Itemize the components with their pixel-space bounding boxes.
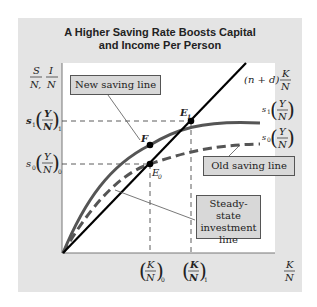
svg-text:(: ( [270,126,278,150]
svg-text:K: K [146,259,155,270]
y-tick-s1: s 1 ( Y N ) 1 [26,108,62,132]
svg-text:(: ( [35,151,43,175]
y-axis-label: S N, I N [29,65,58,90]
svg-text:Y: Y [279,98,287,109]
svg-text:): ) [287,98,295,122]
svg-text:Y: Y [44,108,52,119]
old-saving-label-box: Old saving line [203,156,295,176]
svg-text:K: K [285,259,294,270]
svg-text:): ) [287,126,295,150]
svg-text:1: 1 [187,113,191,120]
svg-text:(: ( [270,98,278,122]
svg-text:1: 1 [58,125,62,132]
new-saving-label-box: New saving line [70,75,161,95]
svg-text:N: N [284,272,295,283]
svg-text:s: s [262,133,266,142]
x-tick-k0: ( K N ) 0 [139,259,165,283]
svg-text:(n + d): (n + d) [244,74,279,85]
svg-text:N: N [280,81,291,92]
svg-text:N: N [188,272,199,283]
svg-text:I: I [48,65,54,76]
svg-text:1: 1 [204,276,208,283]
svg-text:0: 0 [158,173,162,180]
steady-state-label-box: Steady-state investment line [196,195,261,239]
x-tick-k1: ( K N ) 1 [182,259,208,283]
svg-text:S: S [33,65,40,76]
svg-text:0: 0 [161,276,165,283]
svg-text:s: s [26,158,31,169]
svg-text:(: ( [35,108,43,132]
svg-text:0: 0 [58,168,62,175]
chart-svg: S N, I N s 1 ( Y N ) 1 s 0 ( Y N ) 0 ( K… [0,0,317,307]
y-tick-s0: s 0 ( Y N ) 0 [26,151,62,175]
svg-text:s: s [262,105,266,114]
x-axis-label: K N [284,259,295,283]
svg-text:N: N [145,272,156,283]
label-F: F [140,133,149,144]
svg-text:N: N [46,79,57,90]
svg-text:Y: Y [279,126,287,137]
svg-text:K: K [281,68,290,79]
svg-text:N,: N, [29,79,41,90]
svg-text:Y: Y [44,151,52,162]
